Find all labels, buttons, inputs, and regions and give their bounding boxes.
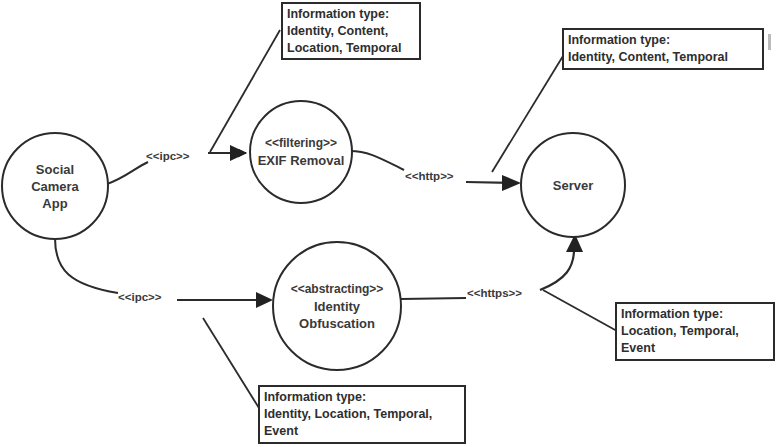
note-line: Identity, Location, Temporal, <box>264 406 460 423</box>
node-server: Server <box>520 132 626 238</box>
edge-app-to-exif <box>107 162 148 184</box>
edge-label-exif-to-server: <<http>> <box>405 170 454 182</box>
node-label-line: Camera <box>31 178 79 195</box>
edge-label-app-to-obfuscation: <<ipc>> <box>118 291 161 303</box>
edge-app-to-obfuscation <box>55 238 118 293</box>
note-title: Information type: <box>264 389 460 406</box>
node-exif-removal: <<filtering>> EXIF Removal <box>249 100 353 204</box>
note-line: Event <box>621 340 769 357</box>
note-line: Identity, Content, Temporal <box>568 49 758 66</box>
node-social-camera-app: Social Camera App <box>1 132 109 240</box>
node-stereotype: <<filtering>> <box>265 135 337 152</box>
edge-artifact-mark <box>768 34 771 50</box>
node-identity-obfuscation: <<abstracting>> Identity Obfuscation <box>272 241 402 371</box>
node-label-line: EXIF Removal <box>258 152 345 169</box>
arrowhead-icon <box>256 292 273 308</box>
note-title: Information type: <box>568 32 758 49</box>
note-obfuscation-server: Information type: Location, Temporal, Ev… <box>615 302 775 361</box>
note-app-obfuscation: Information type: Identity, Location, Te… <box>258 385 466 444</box>
node-stereotype: <<abstracting>> <box>291 281 384 298</box>
arrowhead-icon <box>230 145 247 161</box>
note-line: Location, Temporal <box>287 40 415 57</box>
node-label-line: App <box>42 195 67 212</box>
node-label-line: Social <box>36 161 74 178</box>
node-label-line: Server <box>553 177 593 194</box>
edge-obfuscation-to-server <box>401 298 466 299</box>
node-label-line: Identity <box>314 298 360 315</box>
edge-obfuscation-to-server-arrow <box>540 246 574 290</box>
note-line: Event <box>264 423 460 440</box>
edge-exif-to-server <box>350 151 404 170</box>
note-line: Identity, Content, <box>287 23 415 40</box>
edge-label-app-to-exif: <<ipc>> <box>146 150 189 162</box>
note-title: Information type: <box>621 306 769 323</box>
arrowhead-icon <box>502 175 521 191</box>
note-app-exif: Information type: Identity, Content, Loc… <box>281 2 421 60</box>
note-connector-obfuscation-server <box>543 290 617 331</box>
note-exif-server: Information type: Identity, Content, Tem… <box>562 28 764 70</box>
node-label-line: Obfuscation <box>299 315 375 332</box>
note-connector-app-obfuscation <box>203 318 259 408</box>
edge-label-obfuscation-to-server: <<https>> <box>467 287 522 299</box>
note-line: Location, Temporal, <box>621 323 769 340</box>
note-title: Information type: <box>287 6 415 23</box>
